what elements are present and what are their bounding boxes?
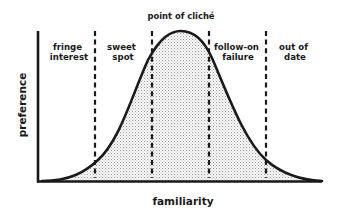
x-axis-label: familiarity — [152, 195, 213, 207]
region-label-line: failure — [222, 52, 254, 62]
region-label-line: out of — [279, 42, 308, 52]
point-of-cliche-label: point of cliché — [147, 11, 214, 21]
y-axis-label: preference — [16, 73, 28, 138]
region-label-line: spot — [112, 52, 133, 62]
region-label-line: interest — [50, 52, 88, 62]
region-label-sweet-spot: sweet spot — [107, 42, 139, 62]
region-label-follow-on-failure: follow-on failure — [214, 42, 262, 62]
region-label-line: fringe — [53, 42, 82, 52]
region-label-out-of-date: out of date — [279, 42, 311, 62]
region-label-line: sweet — [107, 42, 136, 52]
region-label-line: follow-on — [214, 42, 259, 52]
familiarity-preference-diagram: point of cliché fringe interest sweet sp… — [0, 0, 342, 217]
region-label-fringe-interest: fringe interest — [50, 42, 88, 62]
region-label-line: date — [284, 52, 306, 62]
